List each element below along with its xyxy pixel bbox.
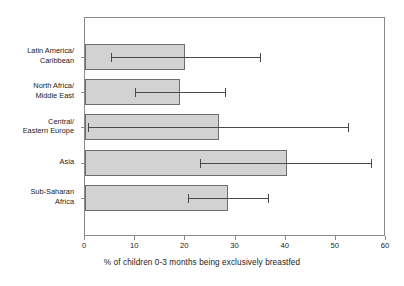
error-bar-cap-high: [260, 53, 261, 62]
error-bar-line: [88, 127, 348, 128]
error-bar-line: [188, 198, 268, 199]
x-axis-tick: [184, 236, 185, 240]
x-axis-tick-label: 30: [223, 241, 247, 250]
y-axis-category-label: North Africa/Middle East: [0, 81, 74, 100]
y-axis-tick: [81, 198, 85, 199]
y-axis-category-labels: Latin America/CaribbeanNorth Africa/Midd…: [0, 17, 80, 236]
error-bar-cap-high: [268, 194, 269, 203]
x-axis: 0102030405060: [84, 236, 385, 256]
error-bar-line: [135, 92, 225, 93]
x-axis-tick: [285, 236, 286, 240]
x-axis-tick: [235, 236, 236, 240]
y-axis-category-label: Asia: [0, 157, 74, 167]
error-bar-line: [200, 163, 371, 164]
error-bar-cap-high: [371, 159, 372, 168]
error-bar-cap-low: [88, 123, 89, 132]
x-axis-label: % of children 0-3 months being exclusive…: [0, 258, 404, 267]
y-axis-tick: [81, 92, 85, 93]
x-axis-tick-label: 20: [172, 241, 196, 250]
y-axis-category-label: Central/Eastern Europe: [0, 117, 74, 136]
error-bar-cap-high: [348, 123, 349, 132]
x-axis-tick: [385, 236, 386, 240]
x-axis-tick-label: 50: [323, 241, 347, 250]
chart-title-remnant: [0, 0, 404, 2]
x-axis-tick: [84, 236, 85, 240]
x-axis-tick-label: 10: [122, 241, 146, 250]
plot-area: [84, 17, 385, 236]
chart-figure: Latin America/CaribbeanNorth Africa/Midd…: [0, 0, 404, 286]
error-bar-cap-high: [225, 88, 226, 97]
x-axis-tick: [134, 236, 135, 240]
y-axis-category-label: Sub-SaharanAfrica: [0, 187, 74, 206]
x-axis-tick-label: 0: [72, 241, 96, 250]
error-bar-cap-low: [135, 88, 136, 97]
x-axis-tick: [335, 236, 336, 240]
error-bar-cap-low: [188, 194, 189, 203]
x-axis-tick-label: 40: [273, 241, 297, 250]
y-axis-tick: [81, 127, 85, 128]
y-axis-category-label: Latin America/Caribbean: [0, 46, 74, 65]
error-bar-cap-low: [200, 159, 201, 168]
error-bar-line: [111, 57, 260, 58]
y-axis-tick: [81, 57, 85, 58]
y-axis-tick: [81, 163, 85, 164]
x-axis-tick-label: 60: [373, 241, 397, 250]
error-bar-cap-low: [111, 53, 112, 62]
